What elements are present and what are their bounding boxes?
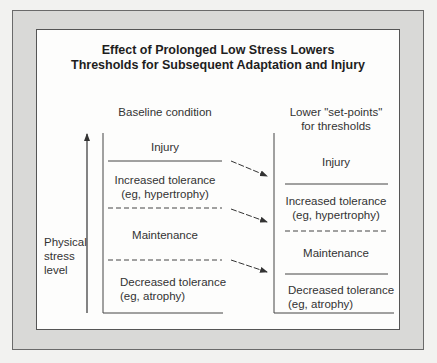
diagram-lines [0, 0, 437, 363]
shift-arrow-atrophy [231, 260, 267, 272]
shift-arrow-injury [231, 161, 267, 176]
shift-arrow-hypertrophy [231, 209, 267, 222]
